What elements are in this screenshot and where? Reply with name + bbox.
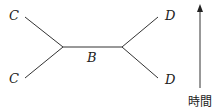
label-c-top: C bbox=[9, 8, 19, 23]
label-c-bottom: C bbox=[9, 71, 19, 86]
time-label: 時間 bbox=[188, 95, 212, 109]
feynman-diagram: C C B D D 時間 bbox=[0, 0, 224, 110]
label-b: B bbox=[86, 50, 97, 65]
label-d-top: D bbox=[164, 8, 176, 23]
line-c-top bbox=[25, 17, 63, 47]
label-d-bottom: D bbox=[164, 72, 176, 87]
line-c-bottom bbox=[25, 47, 63, 78]
diagram-canvas: C C B D D 時間 bbox=[0, 0, 224, 110]
line-d-bottom bbox=[122, 47, 158, 78]
time-arrow-head-icon bbox=[197, 4, 203, 12]
line-d-top bbox=[122, 17, 158, 47]
